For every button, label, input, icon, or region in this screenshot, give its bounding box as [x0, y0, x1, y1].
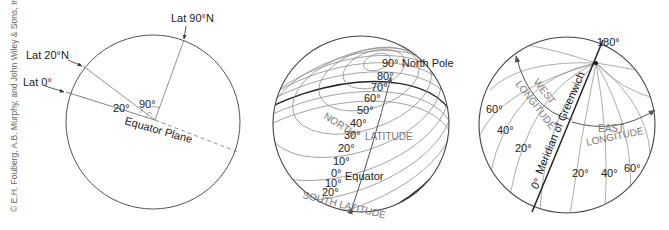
copyright-credit: © E.H. Fouberg, A.B. Murphy, and John Wi…: [9, 0, 19, 212]
lon-w60-label: 60°: [486, 103, 503, 115]
lat-10-label: 10°: [333, 155, 350, 167]
lat-20-label: 20°: [338, 142, 355, 154]
lon-w20-label: 20°: [515, 142, 532, 154]
equator-label: Equator: [345, 170, 384, 182]
equator-plane-label: Equator Plane: [123, 114, 193, 145]
lat0-label: Lat 0°: [23, 76, 52, 88]
lat-60-label: 60°: [364, 92, 381, 104]
latitude-word-label: LATITUDE: [365, 131, 413, 142]
angle90-label: 90°: [139, 98, 156, 110]
longitude-globe: 180° WEST LONGITUDE EAST LONGITUDE Merid…: [479, 36, 660, 215]
cross-section-diagram: Lat 90°N Lat 20°N Lat 0° 20° 90° Equator…: [23, 12, 240, 209]
lon-e60-label: 60°: [624, 162, 641, 174]
lat90-label: Lat 90°N: [171, 12, 214, 24]
north-pole-label: 90° North Pole: [382, 57, 454, 69]
lon-180-label: 180°: [597, 36, 620, 48]
lat-50-label: 50°: [357, 104, 374, 116]
latitude-globe: 90° North Pole 80° 70° 60° 50° 40° 30° 2…: [165, 31, 476, 230]
lon-e40-label: 40°: [601, 167, 618, 179]
angle20-label: 20°: [113, 102, 130, 114]
lon-e20-label: 20°: [572, 167, 589, 179]
lon-w40-label: 40°: [497, 124, 514, 136]
credit-text: © E.H. Fouberg, A.B. Murphy, and John Wi…: [9, 0, 19, 212]
south-latitude-label: SOUTH LATITUDE: [302, 189, 388, 220]
lat20-label: Lat 20°N: [26, 49, 69, 61]
latitude-longitude-figure: © E.H. Fouberg, A.B. Murphy, and John Wi…: [0, 0, 669, 230]
